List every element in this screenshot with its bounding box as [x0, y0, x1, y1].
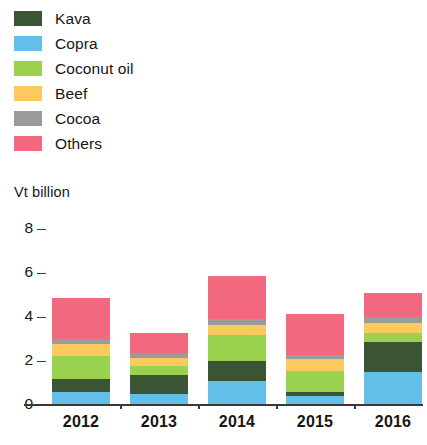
legend-item: Others — [14, 131, 244, 156]
bar-segment — [52, 344, 110, 356]
bar-segment — [208, 361, 266, 381]
legend-item-label: Cocoa — [55, 111, 100, 127]
bar-group — [364, 293, 422, 404]
bar-segment — [52, 356, 110, 379]
bar-segment — [52, 298, 110, 339]
legend-item-label: Kava — [55, 11, 91, 27]
bar-segment — [208, 325, 266, 335]
bar-segment — [364, 372, 422, 404]
bar-series-container — [0, 210, 427, 445]
bar-group — [208, 276, 266, 404]
x-axis-label: 2015 — [286, 413, 344, 431]
x-axis-label: 2016 — [364, 413, 422, 431]
legend-item-label: Others — [55, 136, 102, 152]
stacked-bar — [208, 276, 266, 404]
legend-swatch-icon — [14, 111, 42, 126]
bar-segment — [208, 335, 266, 361]
stacked-bar — [364, 293, 422, 404]
stacked-bar — [286, 314, 344, 404]
legend-swatch-icon — [14, 61, 42, 76]
bar-segment — [208, 381, 266, 404]
stacked-bar — [52, 298, 110, 404]
stacked-bar — [130, 333, 188, 404]
bar-segment — [364, 323, 422, 333]
chart-plot-area: 02468 20122013201420152016 — [0, 210, 427, 445]
x-axis-label: 2012 — [52, 413, 110, 431]
legend-item-label: Beef — [55, 86, 87, 102]
legend-swatch-icon — [14, 136, 42, 151]
legend-item-label: Coconut oil — [55, 61, 134, 77]
bar-segment — [130, 375, 188, 394]
bar-segment — [364, 333, 422, 343]
bar-segment — [286, 314, 344, 355]
bar-group — [286, 314, 344, 404]
x-axis-label: 2014 — [208, 413, 266, 431]
bar-segment — [130, 358, 188, 366]
bar-segment — [286, 359, 344, 371]
bar-group — [130, 333, 188, 404]
bar-segment — [52, 392, 110, 404]
legend-swatch-icon — [14, 86, 42, 101]
bar-segment — [52, 379, 110, 392]
legend-item: Copra — [14, 31, 244, 56]
bar-segment — [130, 366, 188, 376]
bar-group — [52, 298, 110, 404]
y-axis-unit-label: Vt billion — [14, 184, 70, 200]
bar-segment — [364, 342, 422, 372]
bar-segment — [208, 276, 266, 319]
legend-swatch-icon — [14, 36, 42, 51]
chart-legend: KavaCopraCoconut oilBeefCocoaOthers — [14, 6, 244, 156]
bar-segment — [286, 371, 344, 392]
bar-segment — [364, 293, 422, 317]
bar-segment — [130, 394, 188, 404]
legend-item-label: Copra — [55, 36, 98, 52]
x-axis-label: 2013 — [130, 413, 188, 431]
legend-swatch-icon — [14, 11, 42, 26]
legend-item: Cocoa — [14, 106, 244, 131]
legend-item: Beef — [14, 81, 244, 106]
bar-segment — [286, 396, 344, 404]
bar-segment — [130, 333, 188, 354]
legend-item: Coconut oil — [14, 56, 244, 81]
legend-item: Kava — [14, 6, 244, 31]
